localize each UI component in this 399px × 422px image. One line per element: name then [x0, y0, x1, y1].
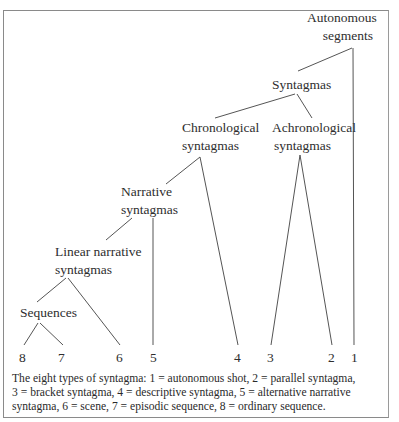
node-label: segments [307, 27, 373, 45]
leaf-7: 7 [58, 350, 65, 366]
leaf-5: 5 [150, 350, 157, 366]
node-label: syntagmas [55, 261, 142, 279]
node-label: Linear narrative [55, 243, 142, 261]
edge-chronological-narrative [166, 157, 200, 184]
caption-line: 3 = bracket syntagma, 4 = descriptive sy… [12, 386, 384, 400]
edge-achronological-leaf2 [300, 155, 332, 345]
leaf-2: 2 [328, 350, 335, 366]
leaf-8: 8 [19, 350, 26, 366]
edge-narrative-linear [106, 218, 132, 240]
node-label: syntagmas [121, 201, 178, 219]
edge-syntagmas-achronological [297, 94, 312, 118]
edge-linear-sequences [37, 278, 66, 302]
node-label: Chronological [182, 119, 259, 137]
edge-autonomous-leaf1 [353, 48, 354, 345]
edge-sequences-leaf8 [24, 323, 38, 345]
edge-achronological-leaf3 [271, 155, 300, 345]
node-sequences: Sequences [20, 304, 77, 322]
node-label: Narrative [121, 183, 178, 201]
leaf-1: 1 [351, 350, 358, 366]
caption-line: The eight types of syntagma: 1 = autonom… [12, 372, 384, 386]
node-autonomous-segments: Autonomous segments [307, 9, 373, 45]
figure-caption: The eight types of syntagma: 1 = autonom… [12, 372, 384, 414]
node-label: Sequences [20, 304, 77, 322]
leaf-6: 6 [116, 350, 123, 366]
node-label: Syntagmas [272, 76, 331, 94]
caption-line: syntagma, 6 = scene, 7 = episodic sequen… [12, 400, 384, 414]
edge-autonomous-syntagmas [298, 48, 352, 71]
node-narrative-syntagmas: Narrative syntagmas [121, 183, 178, 219]
edge-syntagmas-chronological [215, 94, 295, 118]
edge-sequences-leaf7 [40, 323, 63, 345]
leaf-4: 4 [234, 350, 241, 366]
node-syntagmas: Syntagmas [272, 76, 331, 94]
edge-chronological-leaf4 [200, 157, 238, 345]
node-label: syntagmas [272, 137, 356, 155]
node-achronological-syntagmas: Achronological syntagmas [272, 119, 356, 155]
node-label: Autonomous [307, 9, 373, 27]
node-linear-narrative-syntagmas: Linear narrative syntagmas [55, 243, 142, 279]
node-chronological-syntagmas: Chronological syntagmas [182, 119, 259, 155]
node-label: syntagmas [182, 137, 259, 155]
node-label: Achronological [272, 119, 356, 137]
leaf-3: 3 [267, 350, 274, 366]
